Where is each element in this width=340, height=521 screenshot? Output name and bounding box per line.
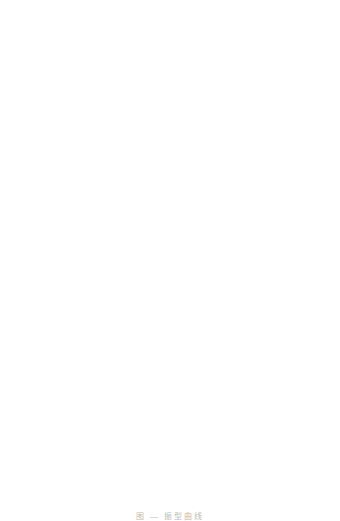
figure-caption: 图 — 振型曲线 — [0, 510, 340, 521]
